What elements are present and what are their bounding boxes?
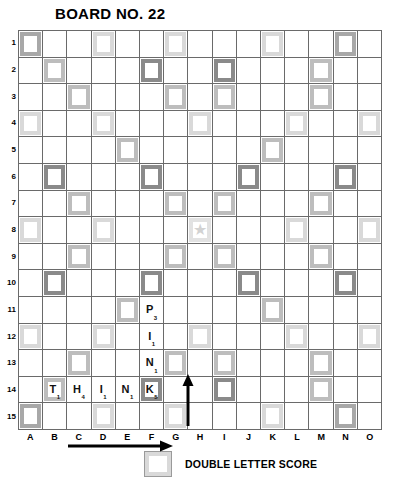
- board-cell-M10[interactable]: [309, 270, 333, 297]
- board-cell-C3[interactable]: [67, 84, 91, 111]
- board-cell-K5[interactable]: [261, 137, 285, 164]
- board-cell-O5[interactable]: [358, 137, 382, 164]
- board-cell-N8[interactable]: [334, 217, 358, 244]
- board-cell-O12[interactable]: [358, 324, 382, 351]
- board-cell-K8[interactable]: [261, 217, 285, 244]
- board-cell-G12[interactable]: [164, 324, 188, 351]
- board-cell-N11[interactable]: [334, 297, 358, 324]
- board-cell-D4[interactable]: [92, 111, 116, 138]
- board-cell-B8[interactable]: [43, 217, 67, 244]
- board-cell-K2[interactable]: [261, 58, 285, 85]
- board-cell-D14[interactable]: I1: [92, 377, 116, 404]
- board-cell-L4[interactable]: [285, 111, 309, 138]
- board-cell-C10[interactable]: [67, 270, 91, 297]
- board-cell-J5[interactable]: [237, 137, 261, 164]
- board-cell-E11[interactable]: [116, 297, 140, 324]
- board-cell-H4[interactable]: [188, 111, 212, 138]
- board-cell-A8[interactable]: [19, 217, 43, 244]
- board-cell-L5[interactable]: [285, 137, 309, 164]
- board-cell-B14[interactable]: T1: [43, 377, 67, 404]
- board-cell-L15[interactable]: [285, 403, 309, 430]
- board-cell-F12[interactable]: I1: [140, 324, 164, 351]
- board-cell-N4[interactable]: [334, 111, 358, 138]
- board-cell-F4[interactable]: [140, 111, 164, 138]
- board-cell-L9[interactable]: [285, 244, 309, 271]
- board-cell-I7[interactable]: [213, 191, 237, 218]
- board-cell-B1[interactable]: [43, 31, 67, 58]
- tile-H-C14[interactable]: H4: [67, 377, 90, 403]
- board-cell-F9[interactable]: [140, 244, 164, 271]
- board-cell-G2[interactable]: [164, 58, 188, 85]
- board-cell-M8[interactable]: [309, 217, 333, 244]
- board-cell-I5[interactable]: [213, 137, 237, 164]
- board-cell-H9[interactable]: [188, 244, 212, 271]
- board-cell-B9[interactable]: [43, 244, 67, 271]
- board-cell-F6[interactable]: [140, 164, 164, 191]
- board-cell-E2[interactable]: [116, 58, 140, 85]
- board-cell-G6[interactable]: [164, 164, 188, 191]
- board-cell-F3[interactable]: [140, 84, 164, 111]
- board-cell-E6[interactable]: [116, 164, 140, 191]
- board-cell-H7[interactable]: [188, 191, 212, 218]
- board-cell-B10[interactable]: [43, 270, 67, 297]
- board-cell-B12[interactable]: [43, 324, 67, 351]
- board-grid[interactable]: ★P3I1N1T1H4I1N1K5: [18, 30, 382, 430]
- board-cell-N14[interactable]: [334, 377, 358, 404]
- board-cell-L10[interactable]: [285, 270, 309, 297]
- board-cell-H6[interactable]: [188, 164, 212, 191]
- board-cell-B7[interactable]: [43, 191, 67, 218]
- board-cell-A3[interactable]: [19, 84, 43, 111]
- board-cell-O1[interactable]: [358, 31, 382, 58]
- board-cell-E13[interactable]: [116, 350, 140, 377]
- board-cell-A12[interactable]: [19, 324, 43, 351]
- board-cell-A11[interactable]: [19, 297, 43, 324]
- board-cell-H11[interactable]: [188, 297, 212, 324]
- tile-I-D14[interactable]: I1: [92, 377, 115, 403]
- board-cell-O14[interactable]: [358, 377, 382, 404]
- board-cell-F7[interactable]: [140, 191, 164, 218]
- board-cell-N13[interactable]: [334, 350, 358, 377]
- board-cell-D15[interactable]: [92, 403, 116, 430]
- board-cell-H10[interactable]: [188, 270, 212, 297]
- board-cell-F10[interactable]: [140, 270, 164, 297]
- board-cell-M3[interactable]: [309, 84, 333, 111]
- board-cell-C8[interactable]: [67, 217, 91, 244]
- board-cell-F2[interactable]: [140, 58, 164, 85]
- board-cell-C6[interactable]: [67, 164, 91, 191]
- board-cell-A14[interactable]: [19, 377, 43, 404]
- board-cell-G4[interactable]: [164, 111, 188, 138]
- board-cell-J4[interactable]: [237, 111, 261, 138]
- board-cell-I8[interactable]: [213, 217, 237, 244]
- board-cell-A4[interactable]: [19, 111, 43, 138]
- board-cell-N5[interactable]: [334, 137, 358, 164]
- board-cell-A1[interactable]: [19, 31, 43, 58]
- board-cell-B5[interactable]: [43, 137, 67, 164]
- board-cell-E5[interactable]: [116, 137, 140, 164]
- board-cell-K15[interactable]: [261, 403, 285, 430]
- board-cell-E4[interactable]: [116, 111, 140, 138]
- board-cell-L7[interactable]: [285, 191, 309, 218]
- board-cell-M15[interactable]: [309, 403, 333, 430]
- board-cell-D13[interactable]: [92, 350, 116, 377]
- board-cell-M7[interactable]: [309, 191, 333, 218]
- board-cell-J10[interactable]: [237, 270, 261, 297]
- board-cell-M2[interactable]: [309, 58, 333, 85]
- board-cell-F1[interactable]: [140, 31, 164, 58]
- board-cell-E15[interactable]: [116, 403, 140, 430]
- board-cell-H13[interactable]: [188, 350, 212, 377]
- board-cell-O13[interactable]: [358, 350, 382, 377]
- board-cell-G8[interactable]: [164, 217, 188, 244]
- board-cell-E14[interactable]: N1: [116, 377, 140, 404]
- board-cell-L1[interactable]: [285, 31, 309, 58]
- board-cell-O7[interactable]: [358, 191, 382, 218]
- board-cell-E10[interactable]: [116, 270, 140, 297]
- board-cell-H2[interactable]: [188, 58, 212, 85]
- board-cell-O6[interactable]: [358, 164, 382, 191]
- board-cell-N12[interactable]: [334, 324, 358, 351]
- board-cell-N1[interactable]: [334, 31, 358, 58]
- board-cell-K10[interactable]: [261, 270, 285, 297]
- board-cell-O11[interactable]: [358, 297, 382, 324]
- board-cell-J9[interactable]: [237, 244, 261, 271]
- board-cell-A2[interactable]: [19, 58, 43, 85]
- board-cell-N9[interactable]: [334, 244, 358, 271]
